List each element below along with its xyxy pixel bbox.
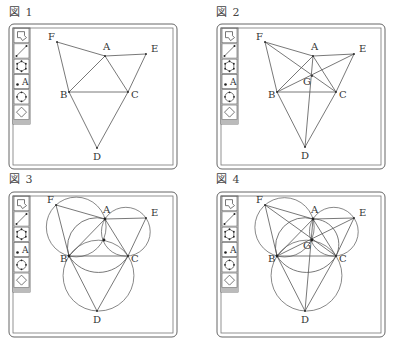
canvas-area[interactable] xyxy=(13,196,173,333)
transform-tool-button[interactable] xyxy=(222,273,237,287)
point-a[interactable] xyxy=(312,218,315,221)
point-label-g: G xyxy=(303,240,311,251)
tool-label-text: A xyxy=(229,245,237,255)
transform-tool-button[interactable] xyxy=(14,273,29,287)
figures-canvas: AFAEBCD AFAEBCDG AFAEBCD AFAEBCDG xyxy=(0,0,393,338)
point-label-e: E xyxy=(151,207,158,218)
polygon-tool-button[interactable] xyxy=(222,59,237,73)
point-f[interactable] xyxy=(264,41,266,43)
point-label-c: C xyxy=(131,89,139,100)
point-b[interactable] xyxy=(276,91,278,93)
point-g[interactable] xyxy=(311,239,314,242)
segment-tool-button[interactable] xyxy=(14,212,29,226)
point-label-f: F xyxy=(48,31,55,42)
point-c[interactable] xyxy=(127,91,129,93)
point-label-c: C xyxy=(339,89,347,100)
point-label-a: A xyxy=(102,41,111,52)
toolbar: A xyxy=(13,196,30,292)
transform-tool-button[interactable] xyxy=(14,105,29,119)
point-label-tool-button[interactable]: A xyxy=(14,74,29,88)
point-e[interactable] xyxy=(145,53,147,55)
circle-tool-button[interactable] xyxy=(222,258,237,272)
point-label-a: A xyxy=(310,41,319,52)
point-label-tool-button[interactable]: A xyxy=(222,74,237,88)
point-e[interactable] xyxy=(353,53,355,55)
point-g[interactable] xyxy=(103,239,106,242)
tool-label-text: A xyxy=(229,77,237,87)
select-tool-button[interactable] xyxy=(222,197,237,211)
segment-tool-button[interactable] xyxy=(222,212,237,226)
select-tool-button[interactable] xyxy=(14,197,29,211)
toolbar: A xyxy=(221,28,238,124)
point-d[interactable] xyxy=(96,310,98,312)
tool-label-text: A xyxy=(21,245,29,255)
point-d[interactable] xyxy=(304,310,306,312)
point-label-tool-button[interactable]: A xyxy=(14,242,29,256)
point-label-d: D xyxy=(93,151,101,162)
segment-tool-button[interactable] xyxy=(14,44,29,58)
point-label-d: D xyxy=(301,314,309,325)
point-label-d: D xyxy=(301,150,309,161)
point-b[interactable] xyxy=(68,91,70,93)
point-e[interactable] xyxy=(353,217,355,219)
select-tool-button[interactable] xyxy=(14,29,29,43)
point-label-e: E xyxy=(151,43,158,54)
point-c[interactable] xyxy=(127,255,129,257)
toolbar: A xyxy=(221,196,238,292)
point-b[interactable] xyxy=(276,255,279,258)
figure-3-panel: AFAEBCD xyxy=(9,192,177,337)
circle-tool-button[interactable] xyxy=(222,90,237,104)
point-label-f: F xyxy=(256,194,263,205)
point-a[interactable] xyxy=(104,218,107,221)
point-label-c: C xyxy=(131,253,139,264)
point-label-e: E xyxy=(359,207,366,218)
point-label-b: B xyxy=(60,253,67,264)
select-tool-button[interactable] xyxy=(222,29,237,43)
point-b[interactable] xyxy=(68,255,71,258)
point-c[interactable] xyxy=(335,91,337,93)
point-a[interactable] xyxy=(104,55,106,57)
point-label-a: A xyxy=(310,204,319,215)
point-label-tool-button[interactable]: A xyxy=(222,242,237,256)
figure-1-panel: AFAEBCD xyxy=(9,24,177,169)
canvas-area[interactable] xyxy=(221,28,381,165)
figure-4-panel: AFAEBCDG xyxy=(217,192,385,337)
point-label-e: E xyxy=(359,43,366,54)
point-f[interactable] xyxy=(56,41,58,43)
transform-tool-button[interactable] xyxy=(222,105,237,119)
polygon-tool-button[interactable] xyxy=(14,59,29,73)
point-c[interactable] xyxy=(335,255,337,257)
point-f[interactable] xyxy=(55,204,57,206)
circle-tool-button[interactable] xyxy=(14,258,29,272)
point-f[interactable] xyxy=(264,204,266,206)
point-label-f: F xyxy=(47,194,54,205)
polygon-tool-button[interactable] xyxy=(14,227,29,241)
point-g[interactable] xyxy=(311,75,313,77)
point-label-f: F xyxy=(256,31,263,42)
circle-tool-button[interactable] xyxy=(14,90,29,104)
point-label-c: C xyxy=(339,253,347,264)
point-label-a: A xyxy=(102,204,111,215)
polygon-tool-button[interactable] xyxy=(222,227,237,241)
point-a[interactable] xyxy=(312,55,314,57)
toolbar: A xyxy=(13,28,30,124)
point-label-g: G xyxy=(303,76,311,87)
point-e[interactable] xyxy=(145,217,147,219)
tool-label-text: A xyxy=(21,77,29,87)
point-d[interactable] xyxy=(96,147,98,149)
canvas-area[interactable] xyxy=(13,28,173,165)
figure-2-panel: AFAEBCDG xyxy=(217,24,385,169)
point-d[interactable] xyxy=(304,146,306,148)
point-label-b: B xyxy=(268,89,275,100)
segment-tool-button[interactable] xyxy=(222,44,237,58)
point-label-d: D xyxy=(93,314,101,325)
point-label-b: B xyxy=(60,89,67,100)
canvas-area[interactable] xyxy=(221,196,381,333)
point-label-b: B xyxy=(268,253,275,264)
